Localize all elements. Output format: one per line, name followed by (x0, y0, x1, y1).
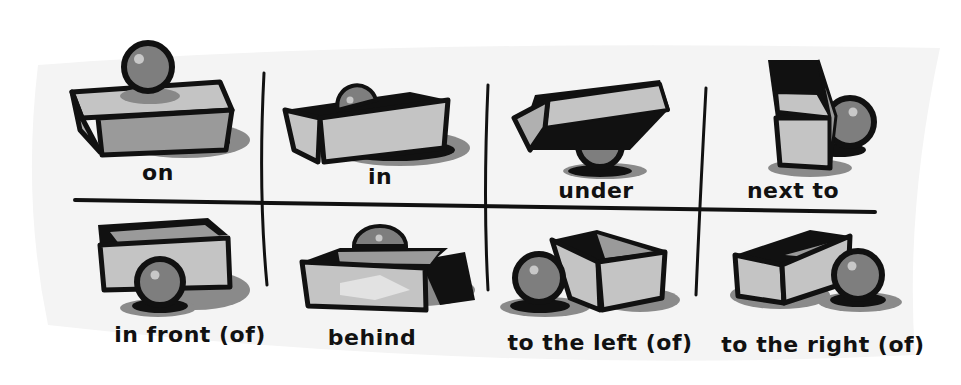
label-next-to: next to (747, 178, 839, 203)
prepositions-illustration: on in under next to in front (of) behind… (0, 0, 961, 385)
label-to-the-left-of: to the left (of) (507, 330, 692, 355)
label-on: on (142, 160, 174, 185)
label-under: under (558, 178, 633, 203)
label-in: in (368, 164, 392, 189)
label-in-front-of: in front (of) (114, 322, 266, 347)
label-behind: behind (328, 325, 416, 350)
label-to-the-right-of: to the right (of) (721, 332, 924, 357)
